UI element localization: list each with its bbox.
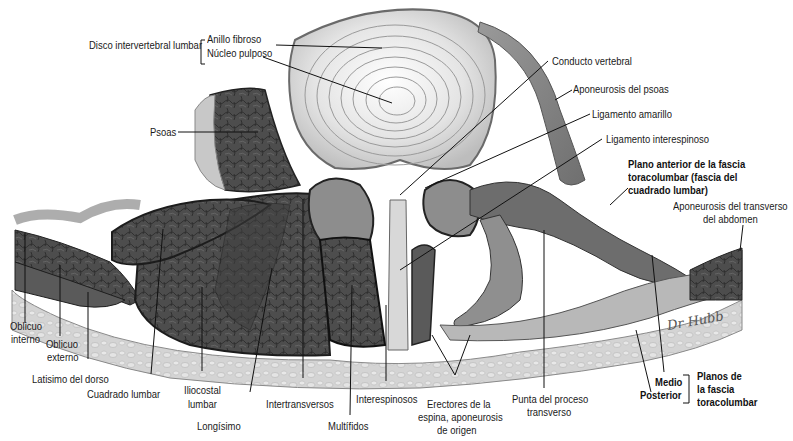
label-latisimo-dorso: Latisimo del dorso	[32, 373, 109, 386]
anatomy-figure: Dr Hubb Disco intervertebral lumbar Anil…	[0, 0, 793, 441]
label-oblicuo-externo-1: Oblicuo	[46, 338, 78, 351]
label-punta-proceso-2: transverso	[527, 406, 571, 419]
left-articular-process	[309, 179, 374, 245]
label-longisimo: Longísimo	[197, 420, 241, 433]
label-erectores-2: espina, aponeurosis	[418, 411, 503, 424]
multifidus-muscle	[320, 238, 385, 347]
label-planos-2: la fascia	[697, 383, 734, 396]
spinous-process	[388, 200, 408, 350]
label-plano-anterior-1: Plano anterior de la fascia	[628, 158, 745, 171]
label-aponeurosis-transverso-2: del abdomen	[703, 213, 758, 226]
label-posterior: Posterior	[640, 389, 682, 402]
label-nucleo-pulposo: Núcleo pulposo	[207, 47, 272, 60]
label-ligamento-amarillo: Ligamento amarillo	[592, 108, 672, 121]
label-punta-proceso-1: Punta del proceso	[512, 393, 588, 406]
label-erectores-1: Erectores de la	[427, 398, 491, 411]
label-erectores-3: de origen	[437, 424, 476, 437]
label-aponeurosis-transverso-1: Aponeurosis del transverso	[673, 200, 788, 213]
label-disco-intervertebral: Disco intervertebral lumbar	[89, 39, 202, 52]
label-oblicuo-interno-2: interno	[11, 333, 40, 346]
lumbar-cross-section-illustration: Dr Hubb	[0, 0, 793, 441]
label-ligamento-interespinoso: Ligamento interespinoso	[606, 133, 709, 146]
label-psoas: Psoas	[150, 126, 176, 139]
intervertebral-disc	[289, 9, 496, 169]
label-intertransversos: Intertransversos	[266, 398, 334, 411]
label-oblicuo-interno-1: Oblicuo	[10, 320, 42, 333]
label-iliocostal-1: Iliocostal	[184, 384, 221, 397]
psoas-muscle	[209, 88, 300, 191]
label-interespinosos: Interespinosos	[356, 393, 418, 406]
label-planos-1: Planos de	[697, 370, 742, 383]
label-planos-3: toracolumbar	[697, 396, 757, 409]
right-lateral-muscles	[690, 248, 742, 300]
label-medio: Medio	[655, 376, 682, 389]
label-oblicuo-externo-2: externo	[47, 351, 79, 364]
label-multifidos: Multífidos	[328, 420, 368, 433]
label-plano-anterior-2: toracolumbar (fascia del	[628, 171, 737, 184]
label-cuadrado-lumbar: Cuadrado lumbar	[87, 388, 160, 401]
label-iliocostal-2: lumbar	[188, 398, 217, 411]
label-conducto-vertebral: Conducto vertebral	[552, 55, 632, 68]
label-aponeurosis-psoas: Aponeurosis del psoas	[573, 83, 669, 96]
label-plano-anterior-3: cuadrado lumbar)	[628, 184, 708, 197]
label-anillo-fibroso: Anillo fibroso	[207, 33, 261, 46]
